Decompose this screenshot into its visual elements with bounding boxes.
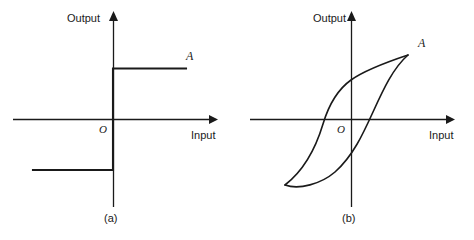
figure-root: Output Input O A (a) <box>0 0 474 240</box>
y-axis-arrowhead-b <box>347 11 356 21</box>
panel-a: Output Input O A (a) <box>0 0 237 240</box>
y-axis-arrowhead-a <box>109 11 118 21</box>
x-axis-arrowhead-a <box>209 115 218 124</box>
panel-a-graphic <box>0 0 237 240</box>
panel-b: Output Input O A (b) <box>237 0 474 240</box>
point-label-a-panel-a: A <box>186 50 193 62</box>
x-axis-a <box>13 115 218 124</box>
y-axis-b <box>347 11 356 207</box>
panel-caption-b: (b) <box>342 212 355 224</box>
y-axis-label-b: Output <box>313 12 346 24</box>
point-label-a-panel-b: A <box>418 37 425 49</box>
y-axis-label-a: Output <box>67 12 100 24</box>
hysteresis-loop-curve <box>285 55 408 187</box>
origin-label-b: O <box>337 124 345 135</box>
panel-b-graphic <box>237 0 474 240</box>
panel-caption-a: (a) <box>104 212 117 224</box>
x-axis-label-a: Input <box>191 129 215 141</box>
x-axis-label-b: Input <box>429 129 453 141</box>
origin-label-a: O <box>99 124 107 135</box>
x-axis-arrowhead-b <box>446 115 455 124</box>
x-axis-b <box>250 115 455 124</box>
